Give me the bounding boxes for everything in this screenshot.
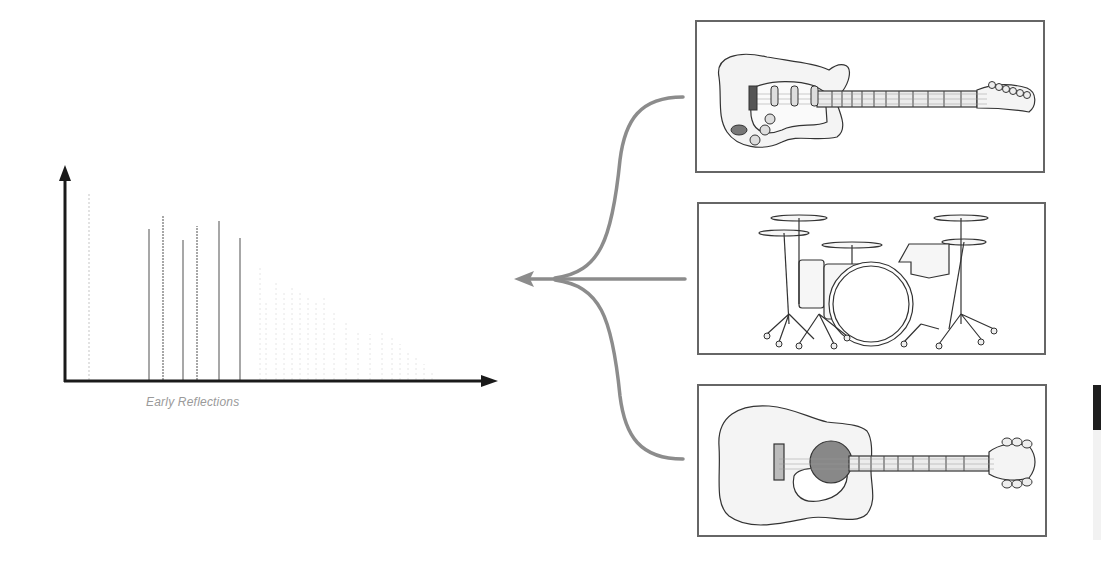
y-axis-arrowhead [59, 165, 71, 181]
impulse-response-chart [59, 165, 498, 387]
late-reflections-cloud [260, 268, 432, 380]
edge-strip-light [1093, 430, 1101, 540]
early-reflection-spikes [149, 216, 240, 380]
chart-xlabel: Early Reflections [146, 395, 239, 409]
edge-strip [1093, 385, 1101, 540]
electric-guitar-card [695, 20, 1045, 173]
edge-strip-dark [1093, 385, 1101, 430]
acoustic-guitar-card [697, 384, 1047, 537]
connector-electric-guitar [555, 97, 683, 278]
electric-guitar-icon [697, 22, 1043, 171]
drum-kit-card [697, 202, 1046, 355]
source-connectors [530, 97, 685, 459]
acoustic-guitar-icon [699, 386, 1045, 535]
x-axis-arrowhead [481, 375, 498, 387]
drum-kit-icon [699, 204, 1044, 353]
connector-acoustic-guitar [555, 280, 683, 459]
